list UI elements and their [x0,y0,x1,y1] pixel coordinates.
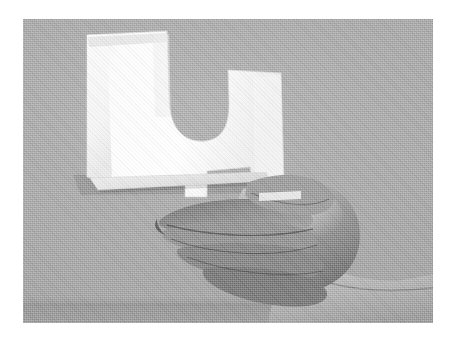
hand [151,169,433,323]
page-root: A hand holding a sheet of white paper cu… [0,0,451,345]
hand-illustration [151,169,433,323]
mu-mid-shading [153,34,171,117]
photograph: A hand holding a sheet of white paper cu… [23,19,433,323]
mu-right-shading [253,75,283,182]
